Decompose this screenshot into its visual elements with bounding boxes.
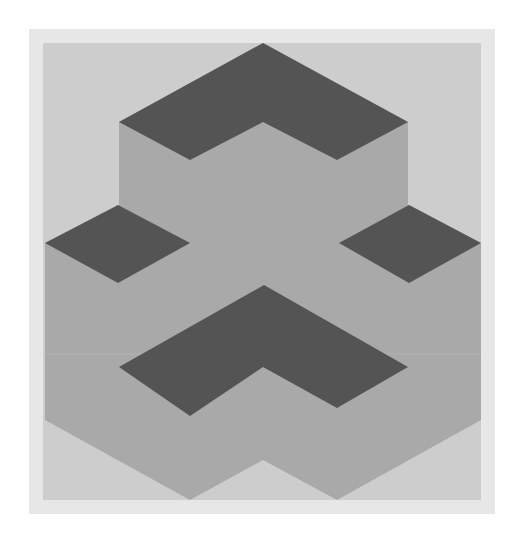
isometric-artwork [0,0,524,543]
